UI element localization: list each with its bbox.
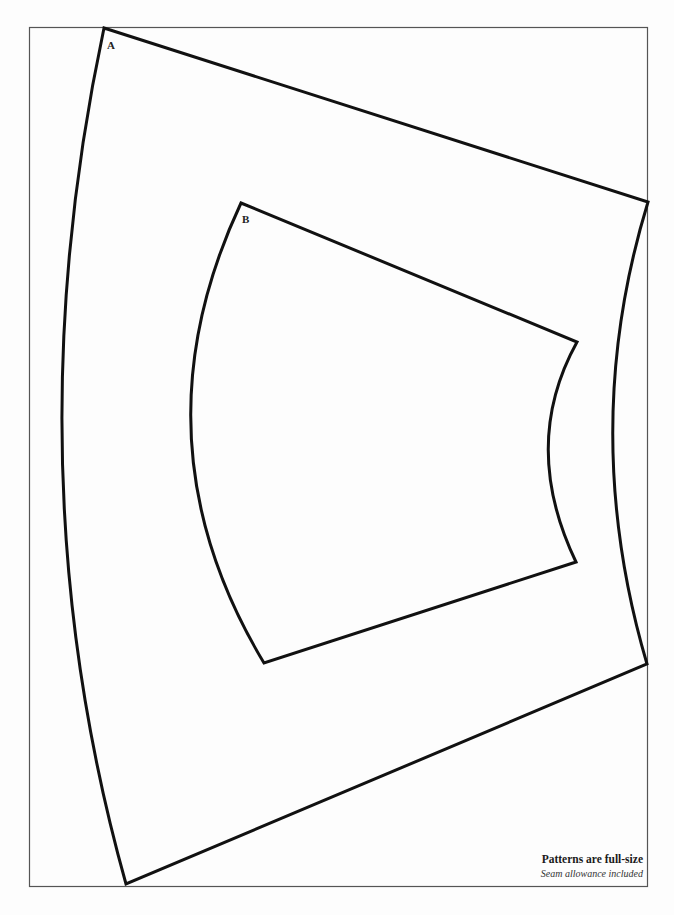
note-subtitle: Seam allowance included [541,867,643,880]
pattern-sheet [0,0,674,915]
pattern-piece-a-label: A [107,40,115,51]
note-title: Patterns are full-size [541,852,643,867]
pattern-note: Patterns are full-size Seam allowance in… [541,852,643,880]
page-frame [30,28,648,887]
pattern-piece-b-label: B [242,214,249,225]
pattern-piece-a-outline [62,28,648,884]
pattern-piece-b-outline [191,203,577,663]
